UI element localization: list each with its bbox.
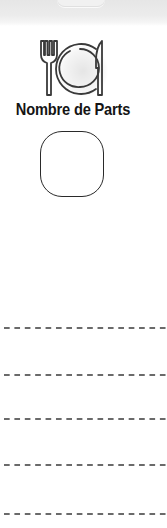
writing-lines — [0, 0, 167, 528]
dashed-line — [4, 464, 167, 466]
dashed-line — [4, 513, 167, 515]
dashed-line — [4, 327, 167, 329]
dashed-line — [4, 374, 167, 376]
dashed-line — [4, 418, 167, 420]
